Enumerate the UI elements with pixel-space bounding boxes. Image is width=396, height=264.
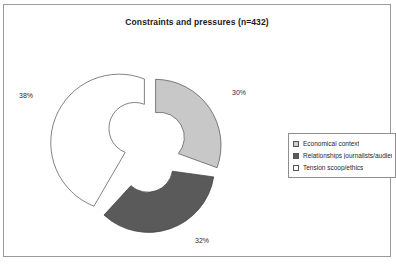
- legend-swatch-economical-context: [293, 141, 299, 147]
- legend-item-tension-scoop-ethics[interactable]: Tension scoop/ethics: [293, 162, 392, 173]
- chart-frame: Constraints and pressures (n=432) 30% 32…: [3, 4, 391, 257]
- legend-label-relationships-journalists-audience: Relationships journalists/audience: [303, 152, 392, 159]
- legend-swatch-relationships-journalists-audience: [293, 153, 299, 159]
- legend-item-relationships-journalists-audience[interactable]: Relationships journalists/audience: [293, 150, 392, 161]
- legend-swatch-tension-scoop-ethics: [293, 165, 299, 171]
- doughnut-chart: [4, 35, 284, 260]
- slice-economical-context[interactable]: [156, 79, 221, 167]
- legend-item-economical-context[interactable]: Economical context: [293, 138, 392, 149]
- slice-relationships-journalists-audience[interactable]: [104, 171, 214, 232]
- legend-label-tension-scoop-ethics: Tension scoop/ethics: [303, 164, 363, 171]
- chart-legend: Economical context Relationships journal…: [288, 133, 396, 178]
- chart-title: Constraints and pressures (n=432): [4, 17, 390, 27]
- value-label-economical-context: 30%: [232, 89, 246, 96]
- value-label-relationships-journalists-audience: 32%: [195, 237, 209, 244]
- value-label-tension-scoop-ethics: 38%: [19, 92, 33, 99]
- legend-label-economical-context: Economical context: [303, 140, 359, 147]
- doughnut-svg: [4, 35, 284, 260]
